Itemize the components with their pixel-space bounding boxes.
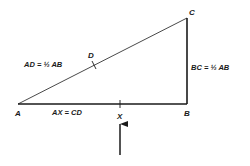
label-b: B bbox=[184, 109, 190, 118]
triangle-diagram: A B C D X AD = ½ AB BC = ½ AB AX = CD bbox=[0, 0, 250, 166]
label-a: A bbox=[14, 109, 21, 118]
annotation-bc: BC = ½ AB bbox=[191, 63, 230, 72]
annotation-ad: AD = ½ AB bbox=[23, 60, 63, 69]
label-d: D bbox=[88, 51, 94, 60]
annotation-ax: AX = CD bbox=[51, 108, 82, 117]
label-x: X bbox=[116, 112, 123, 121]
label-c: C bbox=[189, 8, 195, 17]
